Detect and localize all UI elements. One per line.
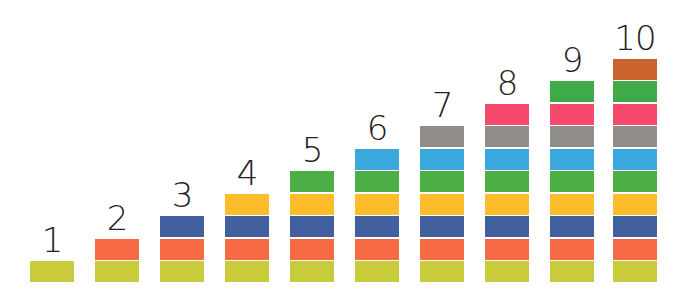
block-blue xyxy=(550,216,594,237)
block-blue xyxy=(355,216,399,237)
block-light-blue xyxy=(613,149,657,170)
stack-label: 6 xyxy=(347,111,407,145)
stack-label: 2 xyxy=(87,201,147,235)
block-yellow-green xyxy=(95,261,139,282)
block-blue xyxy=(225,216,269,237)
block-yellow xyxy=(550,194,594,215)
block-orange xyxy=(420,239,464,260)
block-yellow-green xyxy=(225,261,269,282)
block-orange xyxy=(95,239,139,260)
block-green xyxy=(355,171,399,192)
block-yellow xyxy=(225,194,269,215)
block-green xyxy=(550,81,594,102)
block-blue xyxy=(485,216,529,237)
block-light-blue xyxy=(420,149,464,170)
block-yellow xyxy=(290,194,334,215)
block-pink xyxy=(550,104,594,125)
block-orange xyxy=(355,239,399,260)
block-gray xyxy=(613,126,657,147)
stack-label: 8 xyxy=(477,66,537,100)
block-blue xyxy=(613,216,657,237)
stack-label: 5 xyxy=(282,133,342,167)
block-orange xyxy=(225,239,269,260)
block-gray xyxy=(485,126,529,147)
block-light-blue xyxy=(550,149,594,170)
block-yellow-green xyxy=(355,261,399,282)
block-green xyxy=(420,171,464,192)
block-light-blue xyxy=(355,149,399,170)
block-yellow-green xyxy=(613,261,657,282)
block-green xyxy=(550,171,594,192)
block-orange xyxy=(613,239,657,260)
stack-label: 4 xyxy=(217,156,277,190)
block-green xyxy=(485,171,529,192)
block-blue xyxy=(420,216,464,237)
block-pink xyxy=(613,104,657,125)
block-yellow xyxy=(420,194,464,215)
block-blue xyxy=(290,216,334,237)
stack-label: 9 xyxy=(542,43,602,77)
block-yellow-green xyxy=(550,261,594,282)
block-green xyxy=(613,171,657,192)
block-yellow-green xyxy=(160,261,204,282)
block-yellow-green xyxy=(485,261,529,282)
block-brown-orange xyxy=(613,59,657,80)
block-orange xyxy=(485,239,529,260)
block-blue xyxy=(160,216,204,237)
stack-label: 10 xyxy=(605,21,665,55)
block-yellow xyxy=(485,194,529,215)
block-yellow xyxy=(355,194,399,215)
block-green xyxy=(290,171,334,192)
block-yellow xyxy=(613,194,657,215)
block-orange xyxy=(550,239,594,260)
block-orange xyxy=(160,239,204,260)
stack-label: 3 xyxy=(152,178,212,212)
block-orange xyxy=(290,239,334,260)
block-gray xyxy=(550,126,594,147)
block-gray xyxy=(420,126,464,147)
stack-label: 7 xyxy=(412,88,472,122)
block-yellow-green xyxy=(30,261,74,282)
block-light-blue xyxy=(485,149,529,170)
stack-label: 1 xyxy=(22,223,82,257)
block-green xyxy=(613,81,657,102)
block-yellow-green xyxy=(420,261,464,282)
block-yellow-green xyxy=(290,261,334,282)
block-pink xyxy=(485,104,529,125)
